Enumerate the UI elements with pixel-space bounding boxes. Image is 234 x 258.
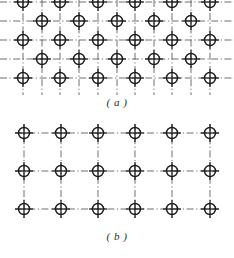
circled-cross-atom xyxy=(15,200,33,218)
panel-a-body-centered-lattice xyxy=(0,0,234,95)
atom-circle xyxy=(112,16,123,27)
circled-cross-atom xyxy=(126,31,144,49)
atom-circle xyxy=(112,54,123,65)
atom-circle xyxy=(37,16,48,27)
atom-circle xyxy=(55,35,66,46)
circled-cross-atom xyxy=(14,31,32,49)
atom-circle xyxy=(205,35,216,46)
atom-circle xyxy=(93,204,104,215)
atom-circle xyxy=(130,204,141,215)
circled-cross-atom xyxy=(89,124,107,142)
circled-cross-atom xyxy=(145,50,163,68)
circled-cross-atom xyxy=(52,162,70,180)
atom-circle xyxy=(37,54,48,65)
atom-circle xyxy=(93,35,104,46)
panel-a-caption: ( a ) xyxy=(0,96,234,108)
circled-cross-atom xyxy=(126,0,144,11)
atom-circle xyxy=(205,204,216,215)
circled-cross-atom xyxy=(182,12,200,30)
atom-circle xyxy=(130,166,141,177)
circled-cross-atom xyxy=(70,50,88,68)
atom-circle xyxy=(56,204,67,215)
atom-circle xyxy=(130,73,141,84)
atom-circle xyxy=(93,73,104,84)
circled-cross-atom xyxy=(89,0,107,11)
circled-cross-atom xyxy=(163,69,181,87)
circled-cross-atom xyxy=(201,200,219,218)
atom-circle xyxy=(130,35,141,46)
circled-cross-atom xyxy=(33,12,51,30)
atom-circle xyxy=(167,128,178,139)
circled-cross-atom xyxy=(15,162,33,180)
circled-cross-atom xyxy=(163,124,181,142)
atom-circle xyxy=(186,54,197,65)
atom-circle xyxy=(93,166,104,177)
circled-cross-atom xyxy=(163,162,181,180)
circled-cross-atom xyxy=(163,0,181,11)
atom-circle xyxy=(167,0,178,8)
circled-cross-atom xyxy=(201,31,219,49)
atom-circle xyxy=(74,16,85,27)
circled-cross-atom xyxy=(52,200,70,218)
circled-cross-atom xyxy=(126,69,144,87)
atom-circle xyxy=(74,54,85,65)
atom-circle xyxy=(55,0,66,8)
circled-cross-atom xyxy=(163,200,181,218)
atom-circle xyxy=(56,166,67,177)
circled-cross-atom xyxy=(145,12,163,30)
circled-cross-atom xyxy=(201,162,219,180)
atom-circle xyxy=(205,128,216,139)
atom-circle xyxy=(130,0,141,8)
panel-b-simple-lattice xyxy=(0,118,234,218)
atom-circle xyxy=(19,166,30,177)
atom-circle xyxy=(205,73,216,84)
circled-cross-atom xyxy=(14,0,32,11)
panel-b-diagram xyxy=(0,118,234,218)
circled-cross-atom xyxy=(108,50,126,68)
atom-circle xyxy=(205,0,216,8)
circled-cross-atom xyxy=(201,0,219,11)
circled-cross-atom xyxy=(126,124,144,142)
circled-cross-atom xyxy=(89,69,107,87)
circled-cross-atom xyxy=(201,124,219,142)
circled-cross-atom xyxy=(89,31,107,49)
atom-circle xyxy=(167,166,178,177)
circled-cross-atom xyxy=(15,124,33,142)
atom-circle xyxy=(55,73,66,84)
lattice-figure: ( a ) ( b ) xyxy=(0,0,234,258)
atom-circle xyxy=(130,128,141,139)
atom-circle xyxy=(18,0,29,8)
atom-circle xyxy=(186,16,197,27)
circled-cross-atom xyxy=(201,69,219,87)
circled-cross-atom xyxy=(70,12,88,30)
circled-cross-atom xyxy=(14,69,32,87)
circled-cross-atom xyxy=(51,69,69,87)
atom-circle xyxy=(205,166,216,177)
circled-cross-atom xyxy=(89,200,107,218)
atom-circle xyxy=(56,128,67,139)
circled-cross-atom xyxy=(89,162,107,180)
atom-circle xyxy=(19,204,30,215)
panel-a-diagram xyxy=(0,0,234,95)
circled-cross-atom xyxy=(182,50,200,68)
atom-circle xyxy=(18,35,29,46)
circled-cross-atom xyxy=(51,0,69,11)
circled-cross-atom xyxy=(51,31,69,49)
atom-circle xyxy=(167,204,178,215)
atom-circle xyxy=(19,128,30,139)
circled-cross-atom xyxy=(126,200,144,218)
atom-circle xyxy=(149,54,160,65)
circled-cross-atom xyxy=(108,12,126,30)
atom-circle xyxy=(18,73,29,84)
circled-cross-atom xyxy=(163,31,181,49)
circled-cross-atom xyxy=(52,124,70,142)
circled-cross-atom xyxy=(33,50,51,68)
circled-cross-atom xyxy=(126,162,144,180)
panel-b-caption: ( b ) xyxy=(0,230,234,242)
atom-circle xyxy=(93,0,104,8)
atom-circle xyxy=(167,73,178,84)
atom-circle xyxy=(167,35,178,46)
atom-circle xyxy=(149,16,160,27)
atom-circle xyxy=(93,128,104,139)
